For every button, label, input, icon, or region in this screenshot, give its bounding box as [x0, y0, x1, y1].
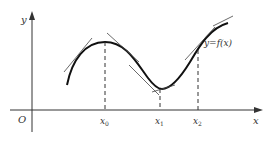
x1-label: x1: [155, 116, 164, 127]
curve-label: y=f(x): [203, 38, 233, 48]
function-curve: [67, 23, 228, 89]
x2-label: x2: [193, 116, 202, 127]
origin-label: O: [18, 114, 26, 125]
function-graph: y x O y=f(x) x0 x1 x2: [0, 0, 270, 146]
tangent-line: [107, 33, 139, 62]
x0-label: x0: [100, 116, 109, 127]
x-axis-label: x: [253, 115, 259, 126]
y-axis-label: y: [20, 14, 27, 25]
tangent-line: [129, 65, 159, 95]
y-axis-arrow-icon: [29, 11, 35, 20]
x-axis-arrow-icon: [254, 107, 263, 113]
tangent-line: [64, 38, 92, 72]
